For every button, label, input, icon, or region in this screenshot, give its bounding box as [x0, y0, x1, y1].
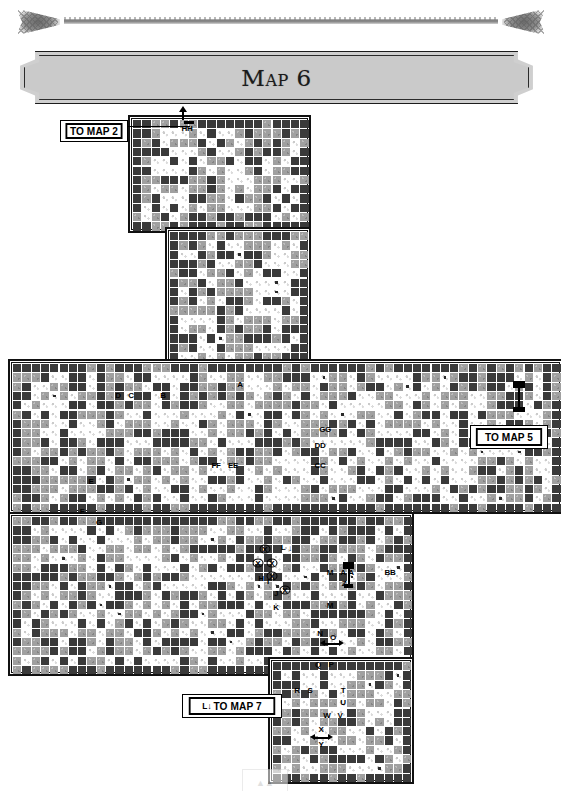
map-cell: [263, 167, 271, 175]
to-map-7-prefix: L↓: [202, 701, 211, 711]
map-cell: [69, 517, 77, 525]
map-cell: [106, 573, 114, 581]
map-cell: [13, 476, 21, 484]
map-cell: [78, 485, 86, 493]
map-cell: [357, 411, 365, 419]
map-cell: [97, 494, 105, 502]
map-cell: [170, 167, 178, 175]
map-cell: [301, 383, 309, 391]
map-cell: [366, 485, 374, 493]
map-cell: [273, 457, 281, 465]
map-cell: [235, 306, 243, 314]
map-cell: [78, 411, 86, 419]
map-cell: [292, 448, 300, 456]
map-cell: [171, 619, 179, 627]
map-cell: [180, 564, 188, 572]
map-cell: [207, 251, 215, 259]
map-cell: [300, 344, 308, 352]
map-cell: [190, 420, 198, 428]
map-cell: [115, 517, 123, 525]
map-cell: [227, 494, 235, 502]
map-cell: [282, 139, 290, 147]
to-map-7-box[interactable]: L↓TO MAP 7: [182, 694, 282, 718]
to-map-5-inner: TO MAP 5: [476, 428, 542, 446]
map-cell: [283, 601, 291, 609]
map-cell: [198, 194, 206, 202]
map-cell: [273, 401, 281, 409]
map-cell: [69, 448, 77, 456]
map-cell: [459, 364, 467, 372]
map-cell: [263, 185, 271, 193]
to-map-2-box[interactable]: TO MAP 2: [60, 120, 128, 142]
map-cell: [227, 517, 235, 525]
map-cell: [60, 564, 68, 572]
map-cell: [60, 554, 68, 562]
map-cell: [235, 213, 243, 221]
map-cell: [78, 448, 86, 456]
map-cell: [347, 727, 355, 735]
map-cell: [403, 671, 411, 679]
map-cell: [254, 204, 262, 212]
map-cell: [301, 582, 309, 590]
map-cell: [320, 494, 328, 502]
map-cell: [208, 582, 216, 590]
room-label-g-12: G: [96, 519, 102, 527]
map-cell: [394, 727, 402, 735]
map-cell: [198, 288, 206, 296]
map-cell: [320, 591, 328, 599]
map-cell: [273, 466, 281, 474]
room-label-a-19: A: [340, 569, 346, 577]
map-cell: [190, 401, 198, 409]
map-cell: [292, 411, 300, 419]
map-cell: [50, 411, 58, 419]
map-cell: [13, 392, 21, 400]
map-cell: [115, 619, 123, 627]
map-cell: [264, 536, 272, 544]
map-cell: [264, 466, 272, 474]
map-cell: [292, 582, 300, 590]
map-cell: [552, 401, 560, 409]
map-cell: [115, 401, 123, 409]
map-cell: [338, 746, 346, 754]
map-cell: [244, 325, 252, 333]
map-cell: [125, 601, 133, 609]
map-cell: [310, 718, 318, 726]
map-cell: [292, 545, 300, 553]
map-cell: [283, 517, 291, 525]
map-cell: [375, 690, 383, 698]
map-cell: [162, 373, 170, 381]
map-cell: [162, 504, 170, 512]
map-cell: [236, 429, 244, 437]
map-cell: [264, 411, 272, 419]
map-cell: [291, 157, 299, 165]
map-cell: [282, 260, 290, 268]
map-cell: [292, 764, 300, 772]
map-cell: [450, 504, 458, 512]
map-cell: [142, 204, 150, 212]
map-cell: [301, 591, 309, 599]
map-cell: [13, 536, 21, 544]
room-label-t-30: T: [341, 687, 346, 695]
map-cell: [413, 383, 421, 391]
map-cell: [227, 564, 235, 572]
map-cell: [22, 429, 30, 437]
secret-door-marker-2: X: [267, 559, 278, 568]
map-cell: [22, 457, 30, 465]
map-cell: [227, 429, 235, 437]
map-cell: [133, 167, 141, 175]
map-cell: [22, 545, 30, 553]
map-cell: [198, 204, 206, 212]
map-cell: [41, 545, 49, 553]
map-cell: [142, 157, 150, 165]
map-cell: [543, 457, 551, 465]
map-cell: [291, 129, 299, 137]
map-cell: [143, 564, 151, 572]
to-map-5-box[interactable]: TO MAP 5: [470, 425, 548, 449]
map-cell: [41, 517, 49, 525]
map-cell: [366, 504, 374, 512]
map-cell: [60, 392, 68, 400]
room-label-bb-22: BB: [385, 569, 396, 577]
map-cell: [255, 536, 263, 544]
map-cell: [487, 364, 495, 372]
map-cell: [366, 736, 374, 744]
